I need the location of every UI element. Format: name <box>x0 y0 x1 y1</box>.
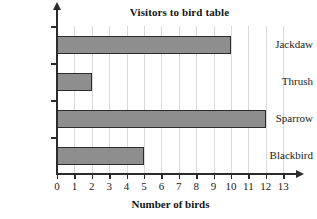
x-axis-tick-5 <box>144 173 145 179</box>
y-axis-tick-2 <box>51 63 57 65</box>
x-axis-tick-8 <box>196 173 197 179</box>
gridline-x-10 <box>231 26 232 174</box>
y-axis-line <box>56 8 58 174</box>
x-axis-tick-6 <box>161 173 162 179</box>
y-axis-label-jackdaw: Jackdaw <box>263 38 317 50</box>
x-axis-tick-7 <box>179 173 180 179</box>
x-axis-tick-2 <box>92 173 93 179</box>
y-axis-label-blackbird: Blackbird <box>263 149 317 161</box>
x-axis-arrow-icon <box>296 170 304 178</box>
x-axis-tick-13 <box>283 173 284 179</box>
x-axis-tick-12 <box>266 173 267 179</box>
chart-title: Visitors to bird table <box>0 6 317 18</box>
y-axis-label-thrush: Thrush <box>263 75 317 87</box>
y-axis-label-sparrow: Sparrow <box>263 112 317 124</box>
bar-jackdaw[interactable] <box>57 36 231 54</box>
x-axis-tick-10 <box>231 173 232 179</box>
bar-thrush[interactable] <box>57 73 92 91</box>
x-axis-tick-1 <box>74 173 75 179</box>
x-axis-title: Number of birds <box>57 198 284 210</box>
x-axis-tick-0 <box>57 173 58 179</box>
bar-blackbird[interactable] <box>57 147 144 165</box>
bar-chart: Visitors to bird table Number of birds B… <box>0 0 317 219</box>
y-axis-tick-3 <box>51 26 57 28</box>
plot-area <box>57 26 284 174</box>
x-axis-tick-4 <box>127 173 128 179</box>
x-axis-label-13: 13 <box>271 180 295 192</box>
gridline-x-11 <box>248 26 249 174</box>
y-axis-tick-0 <box>51 137 57 139</box>
y-axis-tick-1 <box>51 100 57 102</box>
bar-sparrow[interactable] <box>57 110 266 128</box>
x-axis-tick-9 <box>214 173 215 179</box>
x-axis-tick-11 <box>248 173 249 179</box>
y-axis-arrow-icon <box>53 2 61 10</box>
x-axis-tick-3 <box>109 173 110 179</box>
